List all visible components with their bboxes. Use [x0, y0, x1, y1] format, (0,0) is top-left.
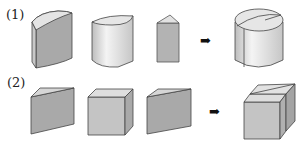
row-1-piece-1-shape — [32, 11, 72, 68]
row-2-arrow-icon: ➡ — [209, 104, 220, 119]
row-2-piece-2-shape — [88, 89, 133, 135]
row-2-piece-1-shape — [31, 88, 74, 134]
row-2-result-cube — [244, 84, 295, 139]
row-1-piece-2-shape — [92, 16, 133, 68]
row-1-result-cylinder — [235, 9, 283, 67]
row-1-arrow-icon: ➡ — [200, 33, 211, 48]
row-1-piece-3-shape — [157, 15, 179, 62]
row-2-piece-3-shape — [147, 89, 191, 134]
diagram-canvas: ➡ ➡ — [0, 0, 305, 141]
